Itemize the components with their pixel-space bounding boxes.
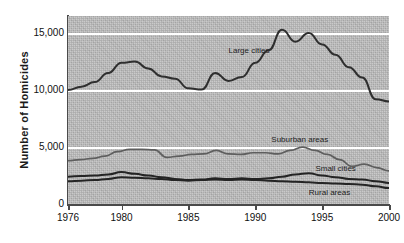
x-tick-mark <box>322 205 324 210</box>
series-label-small-cities: Small cities <box>315 164 355 173</box>
series-line-large-cities <box>68 30 389 102</box>
x-tick-mark <box>188 205 190 210</box>
series-label-suburban-areas: Suburban areas <box>271 135 328 144</box>
x-tick-mark <box>389 205 391 210</box>
x-tick-label: 1976 <box>57 212 79 223</box>
x-tick-mark <box>68 205 70 210</box>
y-tick-label: 10,000 <box>33 85 64 95</box>
y-tick-label: 5,000 <box>39 142 64 152</box>
x-tick-label: 1995 <box>311 212 333 223</box>
x-axis-line <box>67 204 390 206</box>
x-tick-label: 1985 <box>177 212 199 223</box>
x-tick-label: 1980 <box>110 212 132 223</box>
series-label-large-cities: Large cities <box>229 46 270 55</box>
series-label-rural-areas: Rural areas <box>309 188 350 197</box>
x-tick-mark <box>122 205 124 210</box>
plot-area: Large cities Suburban areas Small cities… <box>68 16 389 204</box>
y-tick-label: 0 <box>58 199 64 209</box>
x-tick-label: 1990 <box>244 212 266 223</box>
y-axis-ticks: 15,000 10,000 5,000 0 <box>20 0 64 243</box>
x-tick-mark <box>255 205 257 210</box>
series-lines <box>68 16 389 204</box>
x-tick-label: 2000 <box>378 212 400 223</box>
chart-figure: Number of Homicides 15,000 10,000 5,000 … <box>0 0 404 243</box>
y-tick-label: 15,000 <box>33 28 64 38</box>
